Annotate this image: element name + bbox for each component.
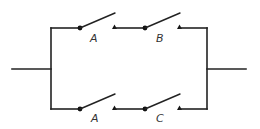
- bottom-branch: A C: [51, 94, 207, 125]
- circuit-diagram: A B A C: [0, 0, 260, 129]
- switch-blade: [145, 13, 180, 28]
- switch-label: C: [156, 112, 164, 125]
- switch-bottom-c: C: [143, 94, 182, 125]
- switch-bottom-a: A: [78, 94, 117, 125]
- switch-blade: [80, 13, 115, 28]
- switch-label: A: [89, 32, 98, 45]
- switch-blade: [145, 94, 180, 109]
- switch-label: B: [156, 32, 164, 45]
- switch-label: A: [90, 112, 99, 125]
- switch-top-a: A: [78, 13, 117, 45]
- switch-blade: [80, 94, 115, 109]
- switch-top-b: B: [143, 13, 182, 45]
- top-branch: A B: [51, 13, 207, 45]
